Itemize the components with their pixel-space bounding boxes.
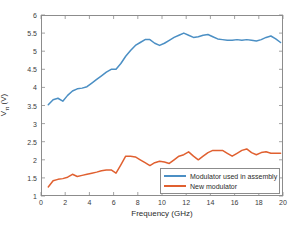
y-tick-label: 4.5	[8, 66, 37, 73]
legend-label: Modulator used in assembly	[190, 173, 277, 180]
x-tick-label: 20	[279, 199, 287, 206]
y-tick-label: 2	[8, 156, 37, 163]
x-tick-label: 6	[112, 199, 116, 206]
y-tick-label: 2.5	[8, 138, 37, 145]
y-tick-label: 5.5	[8, 30, 37, 37]
y-tick-label: 1.5	[8, 174, 37, 181]
legend-item-modulator-used-in-assembly[interactable]: Modulator used in assembly	[164, 171, 276, 181]
y-tick-label: 5	[8, 48, 37, 55]
y-axis-title-base: V	[0, 111, 8, 116]
x-tick-label: 18	[255, 199, 263, 206]
x-tick-label: 4	[87, 199, 91, 206]
y-axis-title-subscript: π	[4, 107, 10, 111]
y-tick-label: 3	[8, 120, 37, 127]
x-tick-label: 2	[63, 199, 67, 206]
x-axis-title: Frequency (GHz)	[41, 210, 283, 218]
y-tick-label: 6	[8, 12, 37, 19]
x-tick-label: 8	[136, 199, 140, 206]
y-tick-label: 4	[8, 84, 37, 91]
y-tick-label: 1	[8, 193, 37, 200]
legend[interactable]: Modulator used in assembly New modulator	[160, 168, 280, 194]
legend-label: New modulator	[190, 183, 237, 190]
series-line-modulator-used-in-assembly	[48, 33, 280, 105]
x-tick-label: 14	[206, 199, 214, 206]
matlab-figure: 11.522.533.544.555.56 02468101214161820 …	[0, 0, 300, 230]
chart-screenshot: 11.522.533.544.555.56 02468101214161820 …	[0, 0, 300, 230]
y-tick-label: 3.5	[8, 102, 37, 109]
series-lines	[48, 33, 280, 187]
legend-swatch-orange	[164, 185, 186, 187]
x-tick-label: 0	[39, 199, 43, 206]
legend-swatch-blue	[164, 175, 186, 177]
x-tick-label: 10	[158, 199, 166, 206]
x-tick-label: 12	[182, 199, 190, 206]
legend-item-new-modulator[interactable]: New modulator	[164, 181, 276, 191]
y-axis-title: Vπ (V)	[0, 75, 10, 135]
x-tick-label: 16	[231, 199, 239, 206]
y-axis-title-unit: (V)	[0, 94, 8, 107]
